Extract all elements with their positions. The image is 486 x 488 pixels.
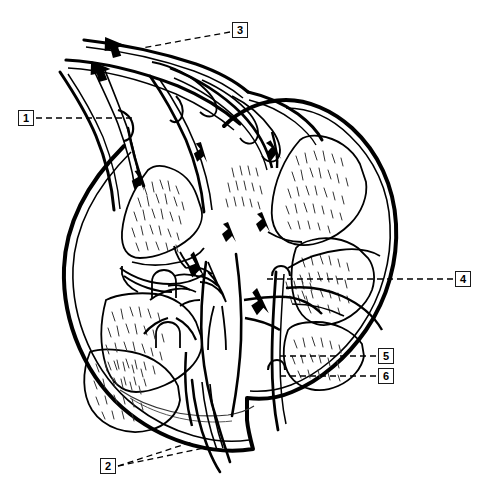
right-vessel-loop-bottom (268, 360, 285, 370)
ureter-line-1 (192, 380, 220, 472)
leader-line-2b (118, 442, 192, 466)
callout-box-5[interactable]: 5 (378, 348, 394, 364)
interlobar-vessel-left-2 (104, 68, 140, 186)
renal-pelvis-wall-right (232, 254, 241, 416)
renal-pelvis-wall-left (201, 262, 230, 462)
flow-arrow-1 (103, 37, 125, 59)
flow-arrow-9 (250, 287, 269, 315)
callout-box-1[interactable]: 1 (18, 110, 34, 126)
leader-line-2a (118, 448, 204, 466)
pyramid-lower-left (84, 349, 180, 432)
interlobar-tree-lower (208, 306, 226, 350)
callout-box-3[interactable]: 3 (232, 22, 248, 38)
callout-box-6[interactable]: 6 (378, 368, 394, 384)
pyramid-upper-right (272, 136, 367, 245)
callout-box-4[interactable]: 4 (455, 271, 471, 287)
kidney-diagram-figure: 1 2 3 4 5 6 (0, 0, 486, 488)
kidney-outer-capsule (64, 100, 396, 451)
renal-column-peak-2 (156, 322, 180, 348)
flow-arrow-6 (222, 222, 236, 242)
kidney-illustration-svg (0, 0, 486, 488)
pelvis-branch-right-upper (244, 297, 286, 300)
callout-box-2[interactable]: 2 (100, 458, 116, 474)
descending-branch-left (128, 128, 144, 186)
pelvis-branch-right-lower (245, 318, 280, 330)
renal-vessels-group (60, 40, 382, 472)
leader-line-3 (142, 32, 230, 48)
renal-parenchyma-group (84, 136, 374, 432)
kidney-capsule-group (64, 100, 396, 451)
flow-arrow-7 (256, 212, 270, 232)
pyramid-mid-left (102, 293, 202, 392)
leader-lines-group (36, 32, 453, 466)
